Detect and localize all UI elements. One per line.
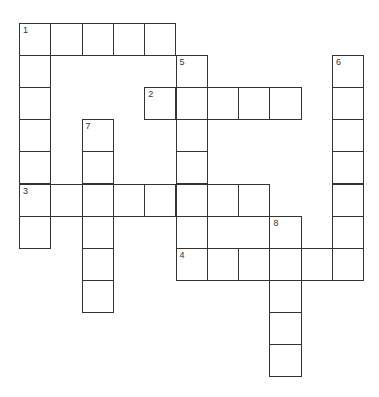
crossword-cell[interactable]: [19, 151, 51, 184]
crossword-cell[interactable]: 5: [176, 55, 208, 88]
crossword-cell[interactable]: [332, 216, 364, 249]
clue-number: 2: [148, 90, 153, 99]
clue-number: 4: [180, 251, 185, 260]
crossword-cell[interactable]: [332, 184, 364, 217]
crossword-grid: 13245678: [0, 0, 379, 397]
crossword-cell[interactable]: 1: [19, 23, 51, 56]
crossword-cell[interactable]: [332, 119, 364, 152]
crossword-cell[interactable]: [82, 151, 114, 184]
crossword-cell[interactable]: [176, 216, 208, 249]
clue-number: 3: [23, 187, 28, 196]
crossword-cell[interactable]: [176, 151, 208, 184]
crossword-cell[interactable]: 6: [332, 55, 364, 88]
crossword-cell[interactable]: [50, 23, 82, 56]
crossword-cell[interactable]: [207, 184, 239, 217]
crossword-cell[interactable]: [269, 312, 301, 345]
crossword-cell[interactable]: 7: [82, 119, 114, 152]
crossword-cell[interactable]: 3: [19, 184, 51, 217]
crossword-cell[interactable]: [301, 248, 333, 281]
clue-number: 6: [336, 58, 341, 67]
crossword-cell[interactable]: [82, 216, 114, 249]
crossword-cell[interactable]: [238, 87, 270, 120]
clue-number: 8: [273, 219, 278, 228]
crossword-cell[interactable]: [82, 23, 114, 56]
crossword-cell[interactable]: [50, 184, 82, 217]
crossword-cell[interactable]: 4: [176, 248, 208, 281]
crossword-cell[interactable]: [82, 280, 114, 313]
crossword-cell[interactable]: [332, 151, 364, 184]
crossword-cell[interactable]: [113, 184, 145, 217]
crossword-cell[interactable]: [19, 87, 51, 120]
crossword-cell[interactable]: [332, 248, 364, 281]
crossword-cell[interactable]: [238, 248, 270, 281]
crossword-cell[interactable]: [113, 23, 145, 56]
crossword-cell[interactable]: 8: [269, 216, 301, 249]
crossword-cell[interactable]: 2: [144, 87, 176, 120]
crossword-cell[interactable]: [176, 119, 208, 152]
crossword-cell[interactable]: [176, 87, 208, 120]
clue-number: 7: [86, 122, 91, 131]
crossword-cell[interactable]: [269, 280, 301, 313]
crossword-cell[interactable]: [207, 87, 239, 120]
crossword-cell[interactable]: [269, 248, 301, 281]
crossword-cell[interactable]: [82, 248, 114, 281]
crossword-cell[interactable]: [144, 184, 176, 217]
clue-number: 1: [23, 26, 28, 35]
crossword-cell[interactable]: [144, 23, 176, 56]
crossword-cell[interactable]: [332, 87, 364, 120]
crossword-cell[interactable]: [269, 87, 301, 120]
crossword-cell[interactable]: [19, 216, 51, 249]
crossword-cell[interactable]: [19, 55, 51, 88]
crossword-cell[interactable]: [82, 184, 114, 217]
crossword-cell[interactable]: [19, 119, 51, 152]
crossword-cell[interactable]: [238, 184, 270, 217]
crossword-cell[interactable]: [176, 184, 208, 217]
clue-number: 5: [180, 58, 185, 67]
crossword-cell[interactable]: [207, 248, 239, 281]
crossword-cell[interactable]: [269, 344, 301, 377]
